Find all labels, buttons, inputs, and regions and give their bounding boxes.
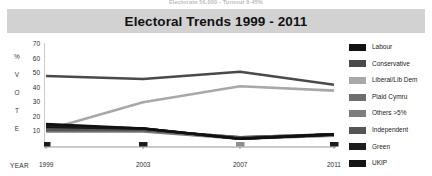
y-axis-title-letter: E	[15, 126, 19, 133]
legend-label: UKIP	[372, 160, 387, 167]
axis-marker	[139, 142, 148, 147]
series-line-liberal-lib-dem	[46, 86, 334, 130]
legend-label: Plaid Cymru	[372, 94, 407, 101]
plot-area	[44, 41, 340, 149]
legend-swatch	[349, 143, 366, 150]
legend-swatch	[349, 77, 366, 84]
y-axis-tick-50: 50	[24, 70, 40, 77]
legend-item-plaid-cymru[interactable]: Plaid Cymru	[349, 89, 431, 106]
y-axis-tick-10: 10	[24, 128, 40, 135]
axis-marker	[44, 142, 51, 147]
chart-title-band: Electoral Trends 1999 - 2011	[7, 9, 425, 33]
legend-label: Labour	[372, 44, 392, 51]
series-lines	[44, 41, 340, 149]
legend-swatch	[349, 60, 366, 67]
y-axis-tick-20: 20	[24, 114, 40, 121]
legend-swatch	[349, 94, 366, 101]
legend-label: Others >5%	[372, 110, 407, 117]
legend-label: Green	[372, 144, 390, 151]
x-axis-tick-1999: 1999	[39, 162, 53, 169]
axis-marker	[236, 142, 245, 147]
axis-marker	[330, 142, 339, 147]
legend-item-liberal-lib-dem[interactable]: Liberal/Lib Dem	[349, 72, 431, 89]
x-axis-title: YEAR	[10, 162, 29, 169]
chart-canvas: Electorate 50,000 - Turnout 0-45% Electo…	[0, 0, 432, 176]
x-axis-tick-2007: 2007	[233, 162, 247, 169]
legend-item-conservative[interactable]: Conservative	[349, 56, 431, 73]
legend-item-labour[interactable]: Labour	[349, 39, 431, 56]
top-caption: Electorate 50,000 - Turnout 0-45%	[0, 0, 432, 6]
y-axis-title-letter: O	[14, 90, 19, 97]
legend-label: Independent	[372, 127, 408, 134]
legend-item-others-5[interactable]: Others >5%	[349, 105, 431, 122]
y-axis-tick-60: 60	[24, 56, 40, 63]
y-axis-title-letter: %	[14, 54, 20, 61]
y-axis-title-letter: T	[15, 108, 19, 115]
legend-item-ukip[interactable]: UKIP	[349, 155, 431, 172]
legend-swatch	[349, 160, 366, 167]
legend-label: Conservative	[372, 61, 410, 68]
page-title: Electoral Trends 1999 - 2011	[125, 14, 308, 29]
legend: LabourConservativeLiberal/Lib DemPlaid C…	[349, 39, 431, 172]
legend-item-independent[interactable]: Independent	[349, 122, 431, 139]
y-axis-tick-70: 70	[24, 41, 40, 48]
legend-swatch	[349, 44, 366, 51]
legend-label: Liberal/Lib Dem	[372, 77, 418, 84]
y-axis-tick-30: 30	[24, 99, 40, 106]
y-axis-tick-40: 40	[24, 85, 40, 92]
legend-swatch	[349, 110, 366, 117]
legend-item-green[interactable]: Green	[349, 139, 431, 156]
x-axis-tick-2011: 2011	[327, 162, 341, 169]
legend-swatch	[349, 127, 366, 134]
series-line-conservative	[46, 72, 334, 85]
y-axis-title-letter: V	[15, 72, 19, 79]
y-axis-title: %VOTE	[10, 54, 24, 144]
x-axis-tick-2003: 2003	[136, 162, 150, 169]
